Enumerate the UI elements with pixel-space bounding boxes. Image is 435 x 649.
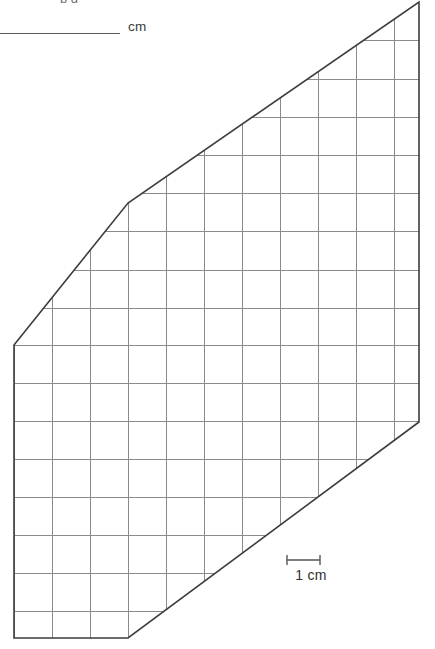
worksheet-page: p g cm (0, 0, 435, 649)
scale-indicator: 1 cm (278, 552, 344, 592)
shape-fill (14, 2, 419, 638)
scale-bar-icon (278, 552, 344, 568)
scale-label: 1 cm (278, 568, 344, 582)
grid-shape-figure (0, 0, 435, 649)
